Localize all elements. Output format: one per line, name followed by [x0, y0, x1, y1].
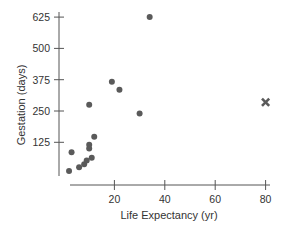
data-point: [76, 164, 82, 170]
y-tick-label: 125: [32, 136, 50, 148]
scatter-chart: 125250375500625 20406080 Life Expectancy…: [0, 0, 290, 230]
x-tick-label: 60: [209, 193, 221, 205]
y-tick-label: 250: [32, 105, 50, 117]
data-point: [147, 14, 153, 20]
x-tick-label: 80: [260, 193, 272, 205]
data-point: [91, 134, 97, 140]
data-point: [109, 79, 115, 85]
data-point: [66, 168, 72, 174]
x-axis-title: Life Expectancy (yr): [120, 209, 217, 221]
data-point: [89, 155, 95, 161]
y-tick-label: 375: [32, 74, 50, 86]
data-point: [116, 87, 122, 93]
y-axis-title: Gestation (days): [15, 65, 27, 146]
y-tick-label: 625: [32, 11, 50, 23]
x-marker-point: [262, 99, 269, 106]
x-axis: 20406080: [70, 180, 272, 205]
data-point: [137, 111, 143, 117]
data-point: [86, 146, 92, 152]
data-points: [66, 14, 269, 174]
data-point: [69, 149, 75, 155]
data-point: [84, 158, 90, 164]
y-tick-label: 500: [32, 42, 50, 54]
x-tick-label: 20: [109, 193, 121, 205]
data-point: [86, 102, 92, 108]
y-axis: 125250375500625: [32, 11, 64, 176]
x-tick-label: 40: [159, 193, 171, 205]
